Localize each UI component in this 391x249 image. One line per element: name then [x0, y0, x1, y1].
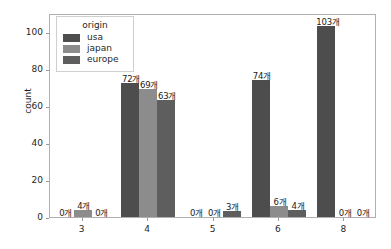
- bar: [157, 100, 175, 217]
- bar-value-label: 0개: [91, 209, 113, 218]
- legend-entry-usa: usa: [63, 33, 129, 42]
- legend-label: japan: [87, 44, 112, 53]
- x-tick-label: 6: [258, 225, 298, 234]
- bar-value-label: 0개: [352, 209, 374, 218]
- x-tick-mark: [213, 218, 214, 221]
- bar: [270, 206, 288, 217]
- bar-value-label: 4개: [287, 202, 309, 211]
- legend-label: europe: [87, 55, 119, 64]
- legend-entries: usajapaneurope: [61, 33, 129, 64]
- x-tick-label: 4: [127, 225, 167, 234]
- bar: [223, 211, 241, 217]
- y-tick-mark: [46, 218, 49, 219]
- x-tick-mark: [82, 218, 83, 221]
- y-tick-label: 100: [15, 28, 43, 37]
- legend-swatch-icon: [63, 45, 80, 53]
- chart-figure: count 020406080100 34568 0개4개0개72개69개63개…: [0, 0, 391, 249]
- x-tick-label: 5: [193, 225, 233, 234]
- x-tick-mark: [343, 218, 344, 221]
- bar-value-label: 63개: [156, 92, 178, 101]
- y-tick-label: 80: [15, 65, 43, 74]
- y-tick-label: 20: [15, 176, 43, 185]
- y-tick-label: 60: [15, 102, 43, 111]
- bar-value-label: 69개: [138, 81, 160, 90]
- bar-value-label: 103개: [316, 18, 338, 27]
- x-tick-label: 8: [323, 225, 363, 234]
- y-tick-label: 0: [15, 213, 43, 222]
- bar-value-label: 3개: [222, 203, 244, 212]
- legend-swatch-icon: [63, 56, 80, 64]
- bar: [74, 210, 92, 217]
- legend-entry-europe: europe: [63, 55, 129, 64]
- legend-entry-japan: japan: [63, 44, 129, 53]
- bar: [317, 26, 335, 217]
- x-tick-mark: [278, 218, 279, 221]
- bar-value-label: 74개: [251, 72, 273, 81]
- bar: [252, 80, 270, 217]
- bar: [121, 83, 139, 217]
- x-tick-mark: [147, 218, 148, 221]
- bar: [288, 210, 306, 217]
- bar: [139, 89, 157, 217]
- chart-legend: origin usajapaneurope: [56, 16, 134, 72]
- x-tick-label: 3: [62, 225, 102, 234]
- legend-title: origin: [61, 21, 129, 30]
- y-tick-label: 40: [15, 139, 43, 148]
- legend-swatch-icon: [63, 34, 80, 42]
- legend-label: usa: [87, 33, 103, 42]
